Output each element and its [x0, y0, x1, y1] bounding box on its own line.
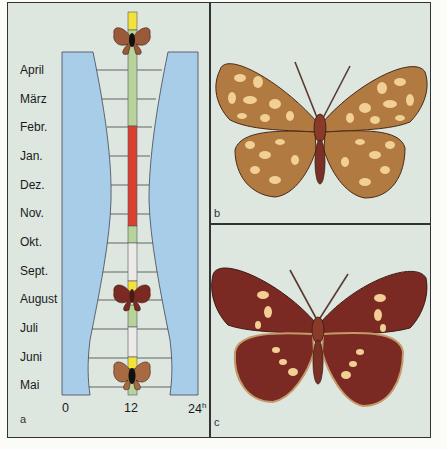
- axis-label-0: 0: [62, 401, 69, 415]
- night-right-shape: [149, 52, 198, 395]
- axis-24-unit: h: [202, 401, 206, 410]
- month-label-maerz: März: [20, 92, 47, 106]
- butterfly-illustration-c: [212, 268, 427, 406]
- month-label-jan: Jan.: [20, 149, 43, 163]
- month-label-mai: Mai: [20, 378, 39, 392]
- month-label-okt: Okt.: [20, 235, 42, 249]
- activity-bar: [128, 12, 137, 395]
- month-label-febr: Febr.: [20, 120, 47, 134]
- panel-label-b: b: [214, 207, 220, 219]
- panel-label-a: a: [20, 413, 26, 425]
- axis-label-24h: 24h: [188, 401, 206, 416]
- month-label-juli: Juli: [20, 321, 38, 335]
- month-label-april: April: [20, 63, 44, 77]
- month-label-dez: Dez.: [20, 178, 45, 192]
- activity-diagram: [0, 0, 447, 449]
- month-label-nov: Nov.: [20, 206, 44, 220]
- panel-label-c: c: [214, 416, 220, 428]
- month-label-sept: Sept.: [20, 264, 48, 278]
- night-left-shape: [62, 52, 111, 395]
- month-label-august: August: [20, 292, 57, 306]
- month-label-juni: Juni: [20, 350, 42, 364]
- axis-label-12: 12: [124, 401, 138, 415]
- butterfly-illustration-b: [216, 62, 427, 198]
- axis-24-value: 24: [188, 402, 202, 416]
